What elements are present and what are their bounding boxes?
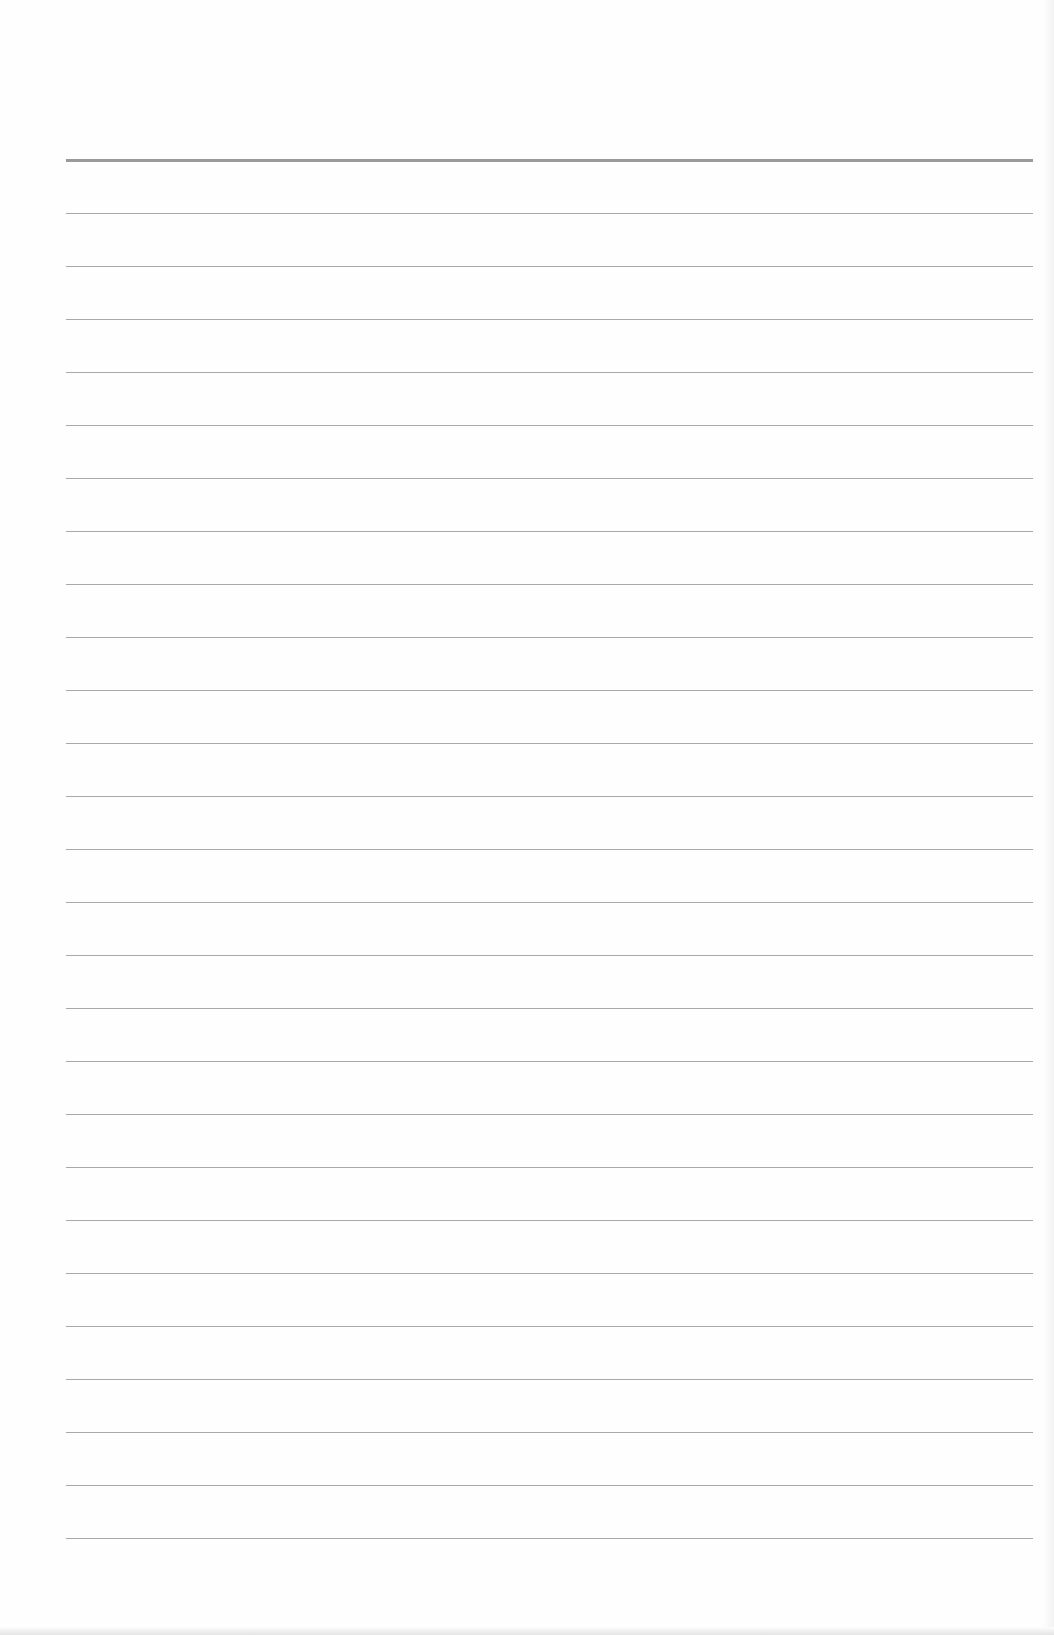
ruled-line (66, 902, 1033, 903)
ruled-line (66, 1485, 1033, 1486)
ruled-line (66, 1432, 1033, 1433)
header-rule (66, 159, 1033, 162)
ruled-line (66, 637, 1033, 638)
ruled-line (66, 584, 1033, 585)
ruled-line (66, 425, 1033, 426)
scan-edge-shadow-right (1044, 0, 1054, 1635)
ruled-line (66, 213, 1033, 214)
ruled-line (66, 1061, 1033, 1062)
lined-paper-page (0, 0, 1054, 1635)
ruled-line (66, 1326, 1033, 1327)
ruled-line (66, 319, 1033, 320)
ruled-line (66, 796, 1033, 797)
ruled-line (66, 531, 1033, 532)
ruled-line (66, 1167, 1033, 1168)
scan-edge-shadow-bottom (0, 1627, 1054, 1635)
ruled-line (66, 1114, 1033, 1115)
ruled-line (66, 849, 1033, 850)
ruled-line (66, 266, 1033, 267)
ruled-line (66, 743, 1033, 744)
ruled-line (66, 1008, 1033, 1009)
ruled-line (66, 372, 1033, 373)
ruled-line (66, 690, 1033, 691)
ruled-line (66, 1273, 1033, 1274)
ruled-line (66, 955, 1033, 956)
ruled-line (66, 478, 1033, 479)
ruled-line (66, 1538, 1033, 1539)
ruled-line (66, 1379, 1033, 1380)
ruled-line (66, 1220, 1033, 1221)
